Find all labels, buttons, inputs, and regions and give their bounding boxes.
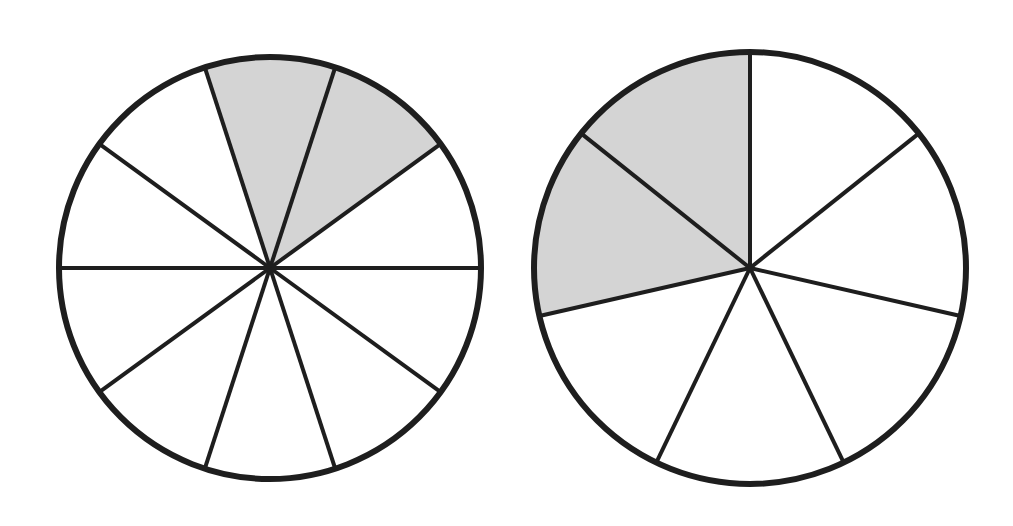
sector-divider <box>270 268 441 392</box>
sector-divider <box>750 268 844 463</box>
fraction-diagram <box>0 0 1013 526</box>
left-fraction-circle <box>59 57 481 479</box>
sector-divider <box>750 133 919 268</box>
sector-divider <box>205 268 270 469</box>
sector-divider <box>270 268 335 469</box>
sector-divider <box>99 268 270 392</box>
sector-divider <box>656 268 750 463</box>
sector-divider <box>750 268 961 316</box>
right-fraction-circle <box>534 52 966 484</box>
